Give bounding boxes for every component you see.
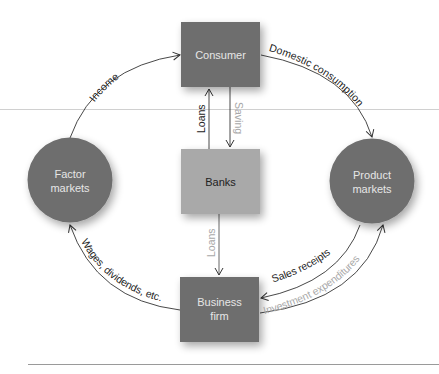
factor-label-line1: Factor <box>54 168 86 180</box>
loans-up-label: Loans <box>195 104 207 133</box>
business-label-line2: firm <box>210 310 228 322</box>
banks-node: Banks <box>181 149 260 214</box>
domestic-consumption-label: Domestic consumption <box>268 41 367 108</box>
sales-receipts-label: Sales receipts <box>270 246 332 285</box>
svg-text:Income: Income <box>86 70 120 104</box>
product-label-line2: markets <box>352 183 392 195</box>
product-markets-node: Product markets <box>330 139 415 224</box>
product-label-line1: Product <box>353 169 391 181</box>
income-arrow <box>70 55 180 138</box>
svg-text:Sales receipts: Sales receipts <box>270 246 332 285</box>
factor-label-line2: markets <box>50 182 90 194</box>
business-label-line1: Business <box>197 296 242 308</box>
business-firm-node: Business firm <box>180 277 259 342</box>
circular-flow-diagram: Consumer Banks Business firm Factor mark… <box>0 0 439 374</box>
consumer-label: Consumer <box>195 49 246 61</box>
loans-down-label: Loans <box>205 228 217 257</box>
svg-text:Wages, dividends, etc.: Wages, dividends, etc. <box>79 236 163 303</box>
investment-expenditures-arrow <box>260 225 383 313</box>
factor-markets-node: Factor markets <box>28 138 113 223</box>
consumer-node: Consumer <box>181 22 260 87</box>
income-label: Income <box>86 70 120 104</box>
banks-label: Banks <box>205 176 236 188</box>
wages-label: Wages, dividends, etc. <box>79 236 163 303</box>
wages-arrow <box>70 225 180 310</box>
svg-text:Domestic consumption: Domestic consumption <box>268 41 367 108</box>
saving-label: Saving <box>233 102 245 134</box>
